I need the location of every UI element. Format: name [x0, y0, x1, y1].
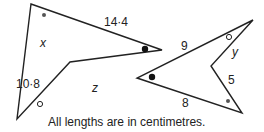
- diagram-canvas: [0, 0, 264, 132]
- label-shape-a-top: 14·4: [104, 16, 128, 28]
- shape-b-top-angle-circle: [226, 34, 231, 39]
- shape-b-bottom-angle-dot: [226, 99, 230, 103]
- label-shape-a-x: x: [40, 37, 46, 49]
- label-shape-a-z: z: [92, 82, 98, 94]
- label-shape-b-lower-right: 5: [228, 74, 235, 86]
- shape-a-top-angle-dot: [42, 13, 46, 17]
- shape-a-bottom-angle-circle: [37, 101, 42, 106]
- shape-a-right-angle-dot: [142, 46, 148, 52]
- label-shape-a-lower-left: 10·8: [16, 78, 40, 90]
- caption: All lengths are in centimetres.: [48, 115, 205, 129]
- label-shape-b-bottom: 8: [182, 97, 189, 109]
- label-shape-b-y: y: [232, 46, 238, 58]
- shape-b-outline: [137, 20, 253, 113]
- shape-b-left-angle-dot: [149, 74, 155, 80]
- label-shape-b-top: 9: [181, 40, 188, 52]
